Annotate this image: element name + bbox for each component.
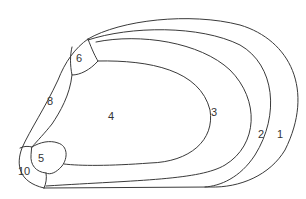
boundary-4 [64, 61, 211, 165]
region-label-5: 5 [38, 152, 44, 164]
boundary-2 [88, 30, 271, 187]
region-label-3: 3 [211, 106, 217, 118]
boundary-8-inner [32, 75, 72, 147]
boundary-10-top [20, 146, 32, 148]
boundary-5 [31, 142, 66, 174]
region-label-4: 4 [108, 110, 114, 122]
region-label-8: 8 [47, 95, 53, 107]
region-label-6: 6 [76, 52, 82, 64]
boundary-6 [71, 39, 99, 75]
region-label-1: 1 [277, 128, 283, 140]
region-label-2: 2 [258, 128, 264, 140]
region-diagram: 1 2 3 4 5 6 8 10 [0, 0, 306, 199]
region-label-10: 10 [18, 165, 30, 177]
